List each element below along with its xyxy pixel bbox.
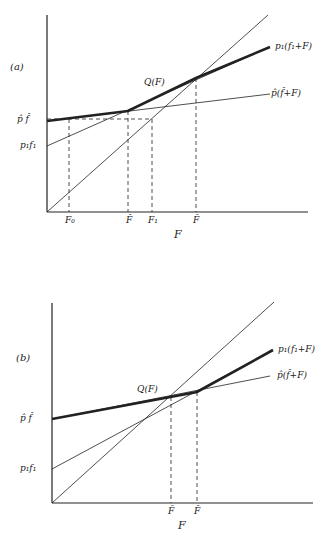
q-curve-b xyxy=(52,350,273,419)
45-degree-line-b xyxy=(52,302,274,503)
dashed-guides-b xyxy=(171,392,197,503)
x-tick-f-bar-a: F̄ xyxy=(193,216,199,225)
panel-b-tag: (b) xyxy=(16,353,30,363)
x-tick-f-hat-a: F̂ xyxy=(126,216,132,225)
curve-label-q-a: Q(F) xyxy=(144,78,165,87)
45-degree-line-a xyxy=(47,15,268,212)
curve-label-q-b: Q(F) xyxy=(137,385,158,394)
x-axis-label-a: F xyxy=(174,229,182,240)
panel-a-tag: (a) xyxy=(10,62,24,72)
diagram-canvas xyxy=(0,0,333,539)
y-label-p1f1-b: p₁f₁ xyxy=(20,464,36,473)
x-tick-f0-a: F₀ xyxy=(65,216,75,225)
x-tick-f1-a: F₁ xyxy=(148,216,158,225)
panel-a xyxy=(47,15,308,212)
curve-label-p-hat-a: p̂(f̂+F) xyxy=(271,89,301,98)
x-tick-f-hat-b: F̂ xyxy=(194,507,200,516)
x-axis-label-b: F xyxy=(178,520,186,531)
y-label-p-hat-f-hat-b: p̂ f̂ xyxy=(20,414,32,423)
y-label-p-hat-f-hat-a: p̂ f̂ xyxy=(17,115,29,124)
curve-label-p1-a: p₁(f₁+F) xyxy=(275,42,312,51)
dashed-guides-a xyxy=(47,78,196,212)
curve-label-p1-b: p₁(f₁+F) xyxy=(278,345,315,354)
panel-b xyxy=(52,302,313,503)
y-label-p1f1-a: p₁f₁ xyxy=(20,141,36,150)
curve-label-p-hat-b: p̂(f̂+F) xyxy=(277,371,307,380)
x-tick-f-bar-b: F̄ xyxy=(168,507,174,516)
